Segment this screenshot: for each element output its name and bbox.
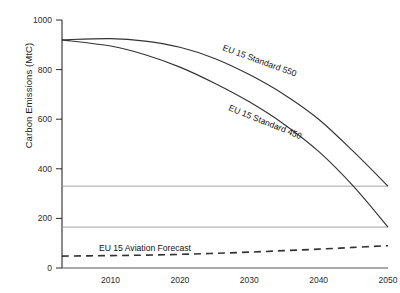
- label-standard-450: EU 15 Standard 450: [227, 103, 303, 142]
- series-line-eu-15-standard-450: [62, 40, 388, 227]
- x-tick-label-2050: 2050: [379, 275, 398, 285]
- y-axis-ticks: 1000 800 600 400 200 0: [33, 15, 62, 273]
- y-tick-label-200: 200: [38, 213, 52, 223]
- label-aviation-forecast: EU 15 Aviation Forecast: [99, 243, 192, 253]
- chart-figure: Carbon Emissions (MtC) 1000 800 600 400 …: [0, 0, 400, 293]
- y-tick-label-800: 800: [38, 65, 52, 75]
- label-standard-550: EU 15 Standard 550: [221, 42, 298, 78]
- x-tick-label-2030: 2030: [240, 275, 259, 285]
- y-tick-label-1000: 1000: [33, 15, 52, 25]
- y-tick-label-600: 600: [38, 114, 52, 124]
- x-axis-ticks: 2010 2020 2030 2040 2050: [101, 275, 398, 285]
- x-tick-label-2020: 2020: [170, 275, 189, 285]
- y-tick-label-0: 0: [47, 263, 52, 273]
- x-tick-label-2010: 2010: [101, 275, 120, 285]
- y-tick-label-400: 400: [38, 164, 52, 174]
- chart-canvas: 1000 800 600 400 200 0 2010 2020 2030 20…: [0, 0, 400, 293]
- series-line-eu-15-standard-550: [62, 39, 388, 187]
- x-tick-label-2040: 2040: [309, 275, 328, 285]
